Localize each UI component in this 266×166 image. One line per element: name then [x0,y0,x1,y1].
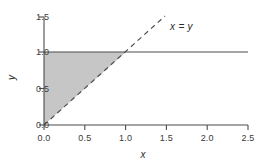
x-axis-ticks [44,125,248,130]
y-axis-ticks [39,17,44,125]
x-tick-label-2-0: 2.0 [201,133,214,143]
chart-figure: 1.5 1.0 0.5 0.0 0.0 0.5 1.0 1.5 2.0 2.5 … [0,0,266,166]
y-tick-label-0-0: 0.0 [36,120,49,130]
x-tick-label-1-0: 1.0 [119,133,132,143]
x-equals-y-annotation: x = y [170,21,193,32]
y-tick-label-0-5: 0.5 [36,84,49,94]
x-tick-label-0-0: 0.0 [37,133,50,143]
y-tick-label-1-0: 1.0 [36,47,49,57]
x-tick-label-1-5: 1.5 [160,133,173,143]
x-axis-title: x [141,149,146,160]
x-tick-label-2-5: 2.5 [241,133,254,143]
y-axis-title: y [6,75,17,80]
y-tick-label-1-5: 1.5 [36,12,49,22]
x-tick-label-0-5: 0.5 [78,133,91,143]
